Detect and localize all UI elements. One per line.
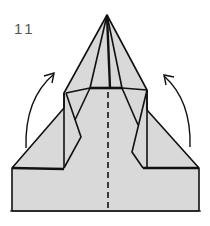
- paper-shape: [12, 15, 199, 211]
- origami-diagram: [0, 0, 210, 226]
